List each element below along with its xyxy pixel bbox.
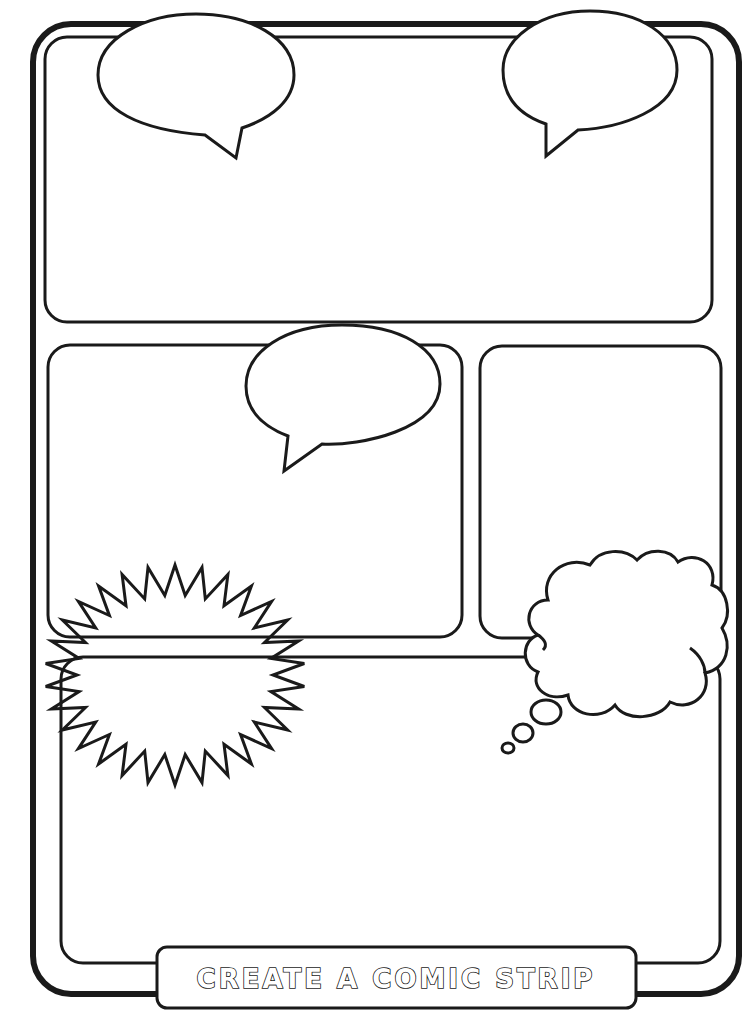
- thought-bubble-medium: [513, 724, 533, 742]
- comic-strip-worksheet: CREATE A COMIC STRIP: [0, 0, 752, 1035]
- comic-template-canvas: CREATE A COMIC STRIP: [0, 0, 752, 1035]
- page-title: CREATE A COMIC STRIP: [197, 964, 596, 994]
- thought-bubble-small: [502, 743, 514, 753]
- thought-bubble-large: [531, 700, 561, 724]
- title-banner: CREATE A COMIC STRIP: [157, 947, 636, 1008]
